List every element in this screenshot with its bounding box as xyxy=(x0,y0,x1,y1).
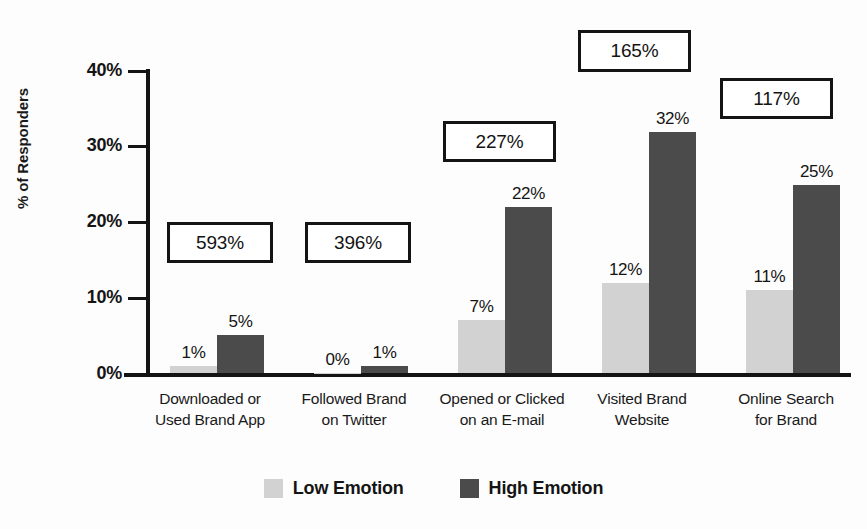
bar-label-high: 1% xyxy=(354,343,415,363)
bar-low-emotion[interactable] xyxy=(458,320,505,373)
bar-group-visited-brand-website: 12% 32% xyxy=(582,72,722,373)
y-tick-label-20: 20% xyxy=(40,211,122,232)
y-tick-mark-0 xyxy=(128,373,148,376)
bar-label-high: 25% xyxy=(786,162,847,182)
bar-label-high: 22% xyxy=(498,184,559,204)
y-tick-label-10: 10% xyxy=(40,287,122,308)
legend-item-high-emotion[interactable]: High Emotion xyxy=(460,478,604,499)
bar-low-emotion[interactable] xyxy=(170,366,217,374)
category-line-2: Website xyxy=(562,409,722,430)
category-label-downloaded-or-used-brand-app: Downloaded or Used Brand App xyxy=(130,388,290,430)
category-line-1: Followed Brand xyxy=(274,388,434,409)
bar-high-emotion[interactable] xyxy=(793,185,840,373)
y-tick-mark-30 xyxy=(128,145,148,148)
bar-low-emotion[interactable] xyxy=(602,283,649,373)
callout-box-396: 396% xyxy=(305,222,411,263)
bar-low-emotion[interactable] xyxy=(314,373,361,374)
bar-group-opened-or-clicked-on-an-email: 7% 22% xyxy=(438,72,578,373)
bar-high-emotion[interactable] xyxy=(505,207,552,373)
category-line-1: Opened or Clicked xyxy=(418,388,586,409)
category-line-2: on an E-mail xyxy=(418,409,586,430)
legend-swatch-icon xyxy=(460,479,479,498)
legend-item-low-emotion[interactable]: Low Emotion xyxy=(264,478,404,499)
category-label-visited-brand-website: Visited Brand Website xyxy=(562,388,722,430)
callout-box-227: 227% xyxy=(443,121,556,162)
category-line-1: Downloaded or xyxy=(130,388,290,409)
callout-box-165: 165% xyxy=(578,30,691,72)
legend-label: Low Emotion xyxy=(293,478,404,499)
callout-box-593: 593% xyxy=(167,222,273,263)
bar-label-low: 7% xyxy=(451,297,512,317)
bar-high-emotion[interactable] xyxy=(649,132,696,373)
category-line-1: Online Search xyxy=(706,388,866,409)
y-tick-label-30: 30% xyxy=(40,135,122,156)
category-line-1: Visited Brand xyxy=(562,388,722,409)
bar-label-low: 1% xyxy=(163,343,224,363)
y-tick-label-40: 40% xyxy=(40,60,122,81)
legend: Low Emotion High Emotion xyxy=(0,478,867,499)
x-axis-line xyxy=(124,373,851,377)
legend-swatch-icon xyxy=(264,479,283,498)
bar-low-emotion[interactable] xyxy=(746,290,793,373)
category-line-2: Used Brand App xyxy=(130,409,290,430)
bar-chart: % of Responders 40% 30% 20% 10% 0% 1% 5%… xyxy=(0,0,867,529)
bar-label-low: 12% xyxy=(595,260,656,280)
bar-label-high: 5% xyxy=(210,312,271,332)
bar-high-emotion[interactable] xyxy=(361,366,408,374)
category-label-online-search-for-brand: Online Search for Brand xyxy=(706,388,866,430)
category-line-2: for Brand xyxy=(706,409,866,430)
category-label-followed-brand-on-twitter: Followed Brand on Twitter xyxy=(274,388,434,430)
category-line-2: on Twitter xyxy=(274,409,434,430)
y-tick-mark-40 xyxy=(128,70,148,73)
category-label-opened-or-clicked-on-an-email: Opened or Clicked on an E-mail xyxy=(418,388,586,430)
y-tick-label-0: 0% xyxy=(40,363,122,384)
bar-label-low: 11% xyxy=(739,267,800,287)
bar-label-high: 32% xyxy=(642,109,703,129)
y-tick-mark-10 xyxy=(128,297,148,300)
callout-box-117: 117% xyxy=(720,78,833,119)
bar-high-emotion[interactable] xyxy=(217,335,264,373)
y-axis-title: % of Responders xyxy=(14,49,31,249)
y-tick-mark-20 xyxy=(128,221,148,224)
legend-label: High Emotion xyxy=(489,478,604,499)
